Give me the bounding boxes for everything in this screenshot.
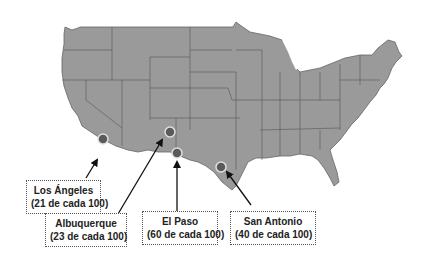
label-los-angeles: Los Ángeles (21 de cada 100) <box>26 180 101 214</box>
city-name: El Paso <box>147 215 213 228</box>
city-name: San Antonio <box>235 215 311 228</box>
marker-san-antonio[interactable] <box>216 162 226 172</box>
city-stat: (23 de cada 100) <box>50 230 122 243</box>
city-stat: (40 de cada 100) <box>235 228 311 241</box>
city-stat: (60 de cada 100) <box>147 228 213 241</box>
marker-el-paso[interactable] <box>172 148 182 158</box>
city-stat: (21 de cada 100) <box>31 197 96 210</box>
marker-los-angeles[interactable] <box>98 134 108 144</box>
city-name: Los Ángeles <box>31 184 96 197</box>
us-landmass <box>62 22 402 190</box>
label-san-antonio: San Antonio (40 de cada 100) <box>230 211 316 245</box>
label-albuquerque: Albuquerque (23 de cada 100) <box>45 213 127 247</box>
label-el-paso: El Paso (60 de cada 100) <box>142 211 218 245</box>
city-name: Albuquerque <box>50 217 122 230</box>
marker-albuquerque[interactable] <box>165 127 175 137</box>
